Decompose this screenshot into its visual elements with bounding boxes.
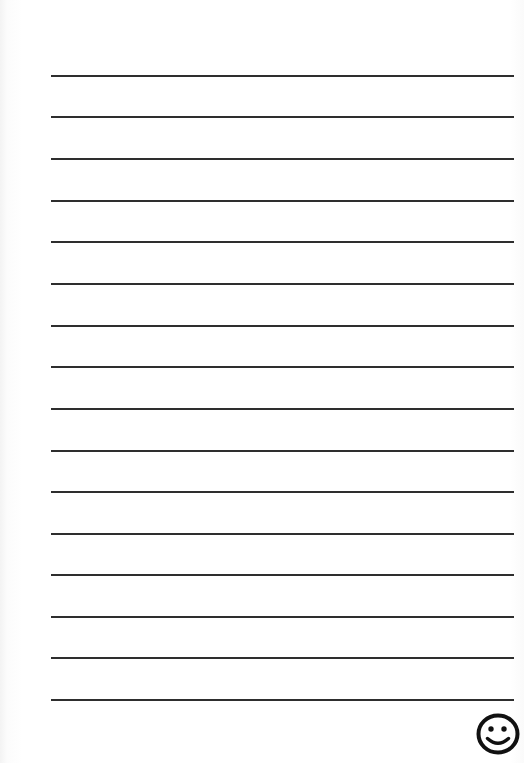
smiley-mouth xyxy=(488,739,509,744)
rule-line xyxy=(51,616,514,618)
rule-line xyxy=(51,200,514,202)
rule-line xyxy=(51,158,514,160)
rule-line xyxy=(51,283,514,285)
smiley-eye-left xyxy=(488,726,493,731)
notepaper-page xyxy=(0,0,524,763)
rule-line xyxy=(51,574,514,576)
rule-line xyxy=(51,491,514,493)
scan-noise-overlay xyxy=(0,0,524,763)
rule-line xyxy=(51,116,514,118)
rule-line xyxy=(51,325,514,327)
rule-line xyxy=(51,533,514,535)
rule-line xyxy=(51,366,514,368)
rule-line xyxy=(51,450,514,452)
smiley-face-icon xyxy=(476,711,522,757)
rule-line xyxy=(51,241,514,243)
smiley-eye-right xyxy=(501,726,506,731)
rule-line xyxy=(51,75,514,77)
rule-line xyxy=(51,657,514,659)
rule-line xyxy=(51,408,514,410)
rule-line xyxy=(51,699,514,701)
smiley-outline xyxy=(479,716,518,753)
